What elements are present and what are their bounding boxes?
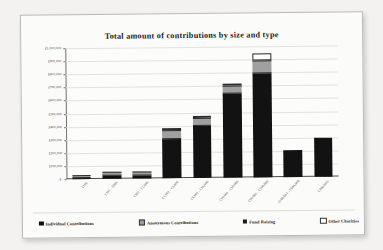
y-axis-tick-label: £700,000 [48,86,62,90]
bar-segment [162,130,181,139]
y-axis-tick [64,140,66,141]
y-axis-tick [65,179,67,180]
legend-swatch-icon [320,217,327,224]
legend-item[interactable]: Other Charities [320,217,359,224]
legend-swatch-icon [39,221,44,226]
gridline [66,72,338,76]
legend-swatch-icon [138,219,145,226]
screenshot-page: the data presented in the table above sh… [0,0,383,250]
plot-area [65,46,338,180]
bar-column[interactable] [222,83,242,178]
y-axis-tick [64,127,66,128]
bar-column[interactable] [72,175,91,179]
x-axis-tick-label: £100,001 - £500,000 [277,179,300,204]
x-axis-tick-label: £501 - £1,000 [132,180,149,198]
y-axis-tick-label: £300,000 [49,138,63,142]
bar-segment [284,150,303,177]
bar-column[interactable] [252,53,272,178]
y-axis-tick-label: £100,000 [49,164,63,168]
y-axis-tick-label: £600,000 [48,99,62,103]
bar-column[interactable] [133,171,152,178]
x-axis-tick-label: £500,001+ [317,179,330,193]
bar-segment [133,175,152,179]
y-axis-tick-label: £500,000 [48,112,62,116]
y-axis-tick [64,153,66,154]
gridline [66,85,338,89]
chart-card: Total amount of contributions by size an… [20,11,365,238]
bar-segment [163,139,182,178]
y-axis-tick [63,61,65,62]
bar-segment [314,137,333,176]
bar-column[interactable] [284,150,303,177]
legend-label: Individual Contributions [45,220,93,225]
legend-swatch-icon [243,219,248,224]
x-axis-tick-label: £10,001 - £50,000 [219,180,240,202]
bar-segment [72,178,91,179]
y-axis-tick [64,166,66,167]
legend-label: Anonymous Contributions [147,219,198,224]
gridline [66,98,338,102]
y-axis-labels: £-£100,000£200,000£300,000£400,000£500,0… [21,48,64,179]
y-axis-tick-label: £400,000 [48,125,62,129]
y-axis-tick-label: £- [59,177,62,181]
gridline [65,59,337,63]
bar-segment [193,118,212,126]
x-axis-tick-label: £50,001 - £100,000 [248,179,270,203]
bar-segment [252,60,271,73]
legend-item[interactable]: Individual Contributions [39,220,94,226]
y-axis-tick [64,101,66,102]
x-axis-tick-label: £1,001 - £5,000 [161,180,179,200]
y-axis-tick-label: £900,000 [48,59,62,63]
bar-column[interactable] [102,172,121,179]
bar-segment [223,94,243,178]
legend-label: Fund Raising [249,219,275,224]
x-axis-tick-label: £101 - £500 [104,181,119,197]
chart-title: Total amount of contributions by size an… [21,29,362,41]
legend-item[interactable]: Anonymous Contributions [138,219,198,226]
chart-legend: Individual ContributionsAnonymous Contri… [35,213,363,230]
x-axis-tick-label: £100 [81,181,89,189]
bar-segment [253,73,273,177]
y-axis-tick [64,114,66,115]
gridline [65,46,337,50]
bar-segment [102,176,121,179]
y-axis-tick-label: £1,000,000 [45,46,61,50]
y-axis-tick [64,74,66,75]
bar-column[interactable] [162,128,181,179]
legend-label: Other Charities [328,218,358,223]
y-axis-tick [63,48,65,49]
bar-segment [193,126,212,178]
x-axis-tick-label: £5,001 - £10,000 [190,180,210,201]
gridline [66,111,338,115]
bar-column[interactable] [193,116,212,178]
y-axis-tick [64,88,66,89]
y-axis-tick-label: £800,000 [48,72,62,76]
bar-column[interactable] [314,137,333,176]
bar-segment [222,85,241,94]
legend-item[interactable]: Fund Raising [243,219,275,224]
y-axis-tick-label: £200,000 [49,151,63,155]
